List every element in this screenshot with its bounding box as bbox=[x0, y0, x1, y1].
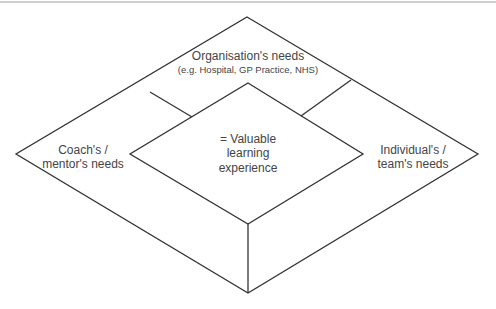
center-line3: experience bbox=[198, 161, 298, 175]
individual-needs-line1: Individual's / bbox=[363, 143, 463, 157]
individual-needs-line2: team's needs bbox=[363, 157, 463, 171]
coach-needs-line2: mentor's needs bbox=[38, 157, 128, 171]
coach-needs-line1: Coach's / bbox=[38, 143, 128, 157]
organisation-examples-label: (e.g. Hospital, GP Practice, NHS) bbox=[138, 64, 358, 75]
center-line2: learning bbox=[198, 146, 298, 160]
individual-needs-label: Individual's / team's needs bbox=[363, 143, 463, 172]
organisation-needs-label: Organisation's needs bbox=[148, 49, 348, 63]
coach-needs-label: Coach's / mentor's needs bbox=[38, 143, 128, 172]
valuable-learning-label: = Valuable learning experience bbox=[198, 132, 298, 175]
center-line1: = Valuable bbox=[198, 132, 298, 146]
connector-top-left bbox=[150, 92, 192, 117]
connector-top-right bbox=[301, 80, 351, 116]
